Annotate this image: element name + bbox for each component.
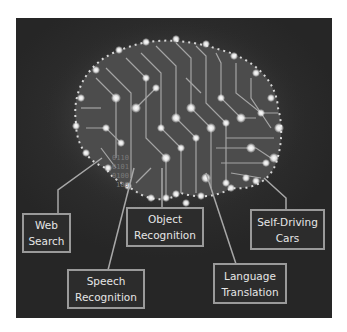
- box-web-search: Web Search: [22, 213, 71, 253]
- self-driving-cars-line2: Cars: [257, 230, 318, 246]
- speech-recognition-line1: Speech: [75, 273, 137, 289]
- object-recognition-line2: Recognition: [134, 227, 196, 243]
- object-recognition-line1: Object: [134, 211, 196, 227]
- speech-recognition-line2: Recognition: [75, 289, 137, 305]
- box-self-driving-cars: Self-Driving Cars: [250, 209, 325, 250]
- language-translation-line1: Language: [221, 268, 278, 284]
- diagram-frame: 0110 0101 0100 100 Web Search Object Rec…: [16, 18, 332, 318]
- connector-web-search: [58, 158, 102, 214]
- web-search-line2: Search: [28, 233, 64, 249]
- connector-language-translation: [206, 173, 236, 264]
- web-search-line1: Web: [28, 217, 64, 233]
- self-driving-cars-line1: Self-Driving: [257, 214, 318, 230]
- connector-self-driving-cars: [264, 178, 286, 210]
- box-speech-recognition: Speech Recognition: [67, 269, 145, 309]
- language-translation-line2: Translation: [221, 284, 278, 300]
- box-object-recognition: Object Recognition: [126, 207, 204, 247]
- box-language-translation: Language Translation: [213, 263, 287, 304]
